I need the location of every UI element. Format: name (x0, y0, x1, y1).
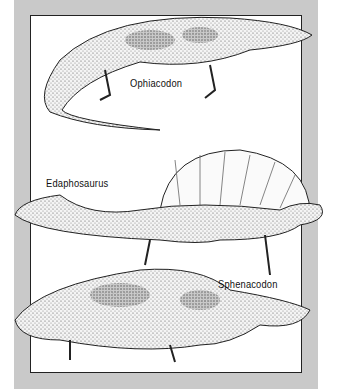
ophiacodon-figure (44, 17, 312, 130)
reptile-drawings (0, 0, 337, 389)
label-ophiacodon: Ophiacodon (130, 77, 182, 89)
label-edaphosaurus: Edaphosaurus (46, 177, 108, 189)
label-sphenacodon: Sphenacodon (218, 278, 278, 290)
edaphosaurus-figure (15, 150, 323, 275)
illustration: Ophiacodon Edaphosaurus Sphenacodon (0, 0, 337, 389)
